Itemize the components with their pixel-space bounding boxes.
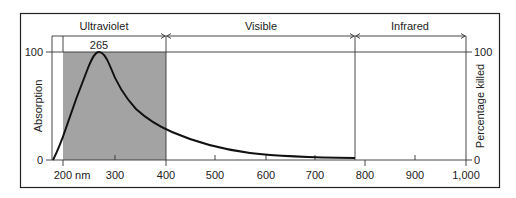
y-left-tick-0: 0 (37, 154, 43, 166)
x-tick-label-800: 800 (356, 169, 374, 181)
y-right-axis-title: Percentage killed (474, 64, 486, 148)
y-right-tick-100: 100 (474, 46, 492, 58)
x-tick-label-600: 600 (257, 169, 275, 181)
peak-annotation: 265 (90, 39, 108, 51)
y-left-tick-100: 100 (25, 46, 43, 58)
x-tick-label-300: 300 (106, 169, 124, 181)
x-tick-label-200: 200 nm (54, 169, 91, 181)
region-label-infrared: Infrared (391, 20, 429, 32)
uv-absorption-chart: Ultraviolet Visible Infrared 265 100 0 A… (0, 0, 516, 198)
x-tick-label-400: 400 (157, 169, 175, 181)
region-label-ultraviolet: Ultraviolet (80, 20, 129, 32)
x-tick-label-1000: 1,000 (452, 169, 480, 181)
x-tick-label-500: 500 (206, 169, 224, 181)
region-label-visible: Visible (245, 20, 277, 32)
uv-shaded-region (63, 52, 166, 160)
y-right-tick-0: 0 (474, 154, 480, 166)
x-tick-label-700: 700 (306, 169, 324, 181)
y-left-axis-title: Absorption (32, 80, 44, 133)
x-tick-label-900: 900 (406, 169, 424, 181)
